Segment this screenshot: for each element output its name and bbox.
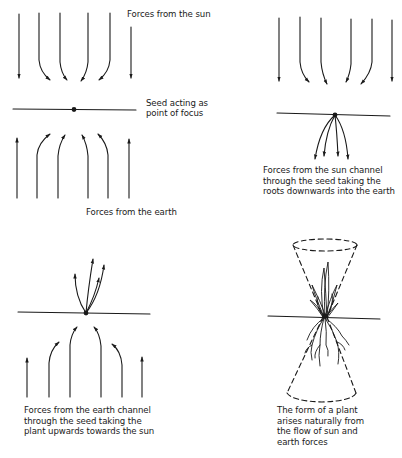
panel-1-sun-label: Forces from the sun [127, 9, 211, 20]
panel-4-caption-line2: arises naturally from [277, 416, 364, 427]
panel-3-earth-arrows [27, 327, 142, 397]
panel-4-caption-line3: the flow of sun and [277, 426, 358, 437]
panel-4-plant-leaves [310, 262, 338, 319]
panel-1-seed-label-line1: Seed acting as [146, 98, 208, 109]
panel-3-caption-line2: through the seed taking the [24, 416, 142, 427]
panel-1-earth-label: Forces from the earth [86, 207, 177, 218]
diagram-canvas [0, 0, 402, 458]
panel-3-caption-line3: plant upwards towards the sun [24, 426, 154, 437]
panel-1-seed-dot [72, 107, 77, 112]
panel-2-root-arrows [315, 115, 348, 159]
panel-1-earth-arrows [17, 134, 129, 198]
panel-2-caption-line3: roots downwards into the earth [263, 186, 395, 197]
panel-2-sun-arrows [279, 17, 392, 84]
panel-3-shoot-arrows [75, 259, 104, 313]
panel-4-caption-line1: The form of a plant [277, 405, 358, 416]
panel-1-sun-arrows [19, 13, 131, 81]
panel-4-caption-line4: earth forces [277, 437, 328, 448]
panel-3-caption-line1: Forces from the earth channel [24, 405, 151, 416]
panel-2-caption-line2: through the seed taking the [263, 176, 381, 187]
panel-2-caption-line1: Forces from the sun channel [263, 165, 382, 176]
panel-1-seed-label-line2: point of focus [146, 108, 203, 119]
